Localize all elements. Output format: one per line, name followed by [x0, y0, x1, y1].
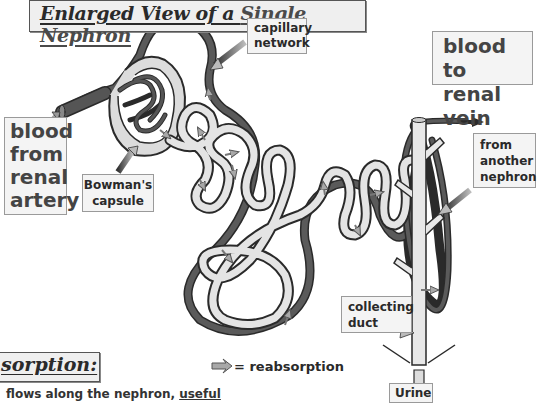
section-body-line1: flows along the nephron, useful	[6, 387, 221, 401]
label-blood-to-renal-vein: blood to renal vein	[432, 31, 533, 85]
title-prefix: Enlarged View of a	[40, 2, 240, 24]
label-line: another	[480, 153, 535, 169]
page-title: Enlarged View of a Single Nephron	[29, 0, 366, 32]
label-capillary-network: capillary network	[247, 18, 307, 54]
label-blood-from-renal-artery: blood from renal artery	[4, 117, 67, 215]
label-line: duct	[348, 315, 411, 331]
label-line: from	[10, 143, 66, 166]
label-line: collecting	[348, 299, 411, 315]
body-text: flows along the nephron,	[6, 387, 179, 401]
section-heading-text: sorption:	[1, 353, 97, 375]
label-urine: Urine	[389, 383, 433, 403]
label-line: renal	[10, 166, 66, 189]
label-line: artery	[10, 189, 66, 212]
legend-text: = reabsorption	[234, 359, 344, 374]
legend: = reabsorption	[206, 359, 344, 374]
label-bowmans-capsule: Bowman's capsule	[82, 174, 154, 212]
label-collecting-duct: collecting duct	[341, 296, 412, 333]
label-from-another-nephron: from another nephron	[473, 133, 536, 188]
label-line: capsule	[83, 193, 153, 209]
section-heading: sorption:	[0, 352, 100, 382]
label-line: from	[480, 137, 535, 153]
label-line: Bowman's	[83, 177, 153, 193]
label-line: Urine	[395, 386, 431, 400]
body-text-underlined: useful	[179, 387, 221, 401]
label-line: capillary	[254, 21, 306, 36]
label-line: network	[254, 36, 306, 51]
label-line: renal vein	[443, 82, 532, 130]
reabsorption-arrow-icon	[206, 363, 228, 373]
label-line: blood to	[443, 34, 532, 82]
label-line: nephron	[480, 169, 535, 185]
label-line: blood	[10, 120, 66, 143]
